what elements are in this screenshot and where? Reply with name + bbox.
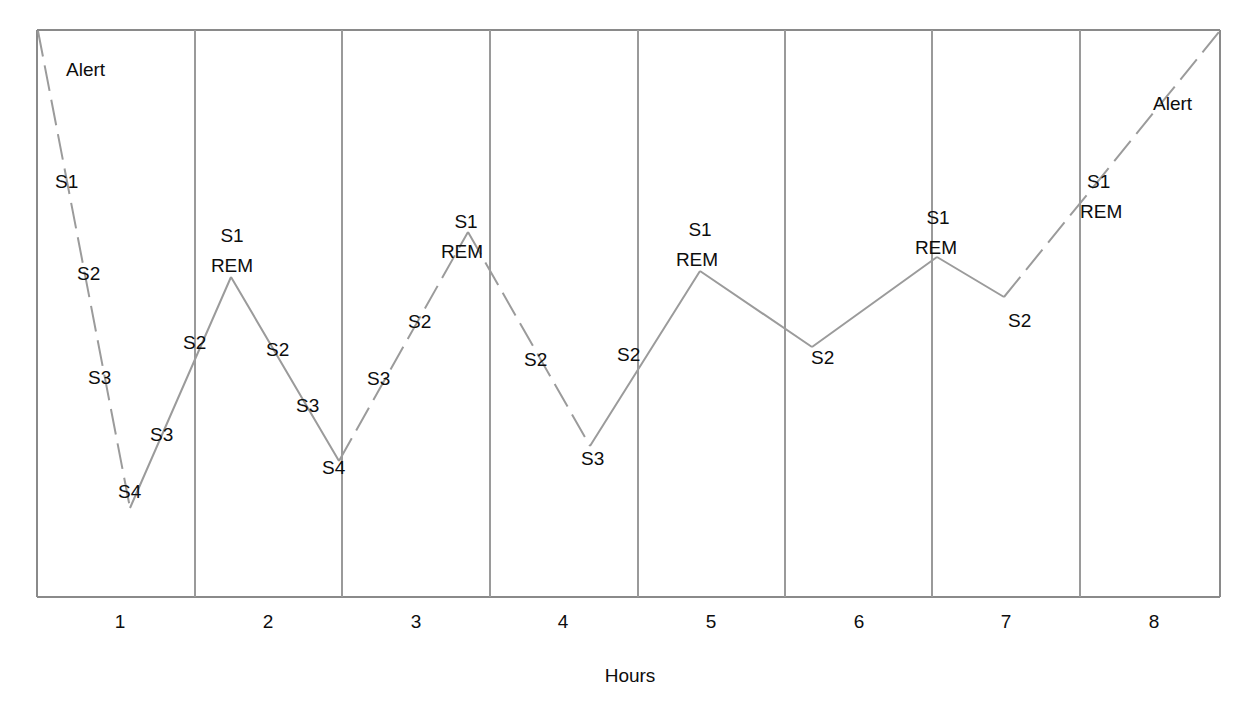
stage-label-rem-8: REM [211, 255, 253, 276]
stage-label-s1-7: S1 [220, 225, 243, 246]
stage-label-s2-2: S2 [77, 263, 100, 284]
x-tick-label-3: 3 [411, 611, 422, 632]
stage-label-alert-0: Alert [66, 59, 106, 80]
stage-label-s1-1: S1 [55, 171, 78, 192]
stage-label-s3-5: S3 [150, 424, 173, 445]
stage-label-s1-19: S1 [688, 219, 711, 240]
stage-label-s3-3: S3 [88, 367, 111, 388]
stage-label-s3-12: S3 [367, 368, 390, 389]
stage-label-s1-25: S1 [1087, 171, 1110, 192]
stage-label-s3-17: S3 [581, 448, 604, 469]
x-tick-label-5: 5 [706, 611, 717, 632]
x-axis-tick-labels: 12345678 [115, 611, 1160, 632]
stage-label-rem-20: REM [676, 249, 718, 270]
x-tick-label-1: 1 [115, 611, 126, 632]
stage-label-alert-27: Alert [1153, 93, 1193, 114]
stage-label-s4-4: S4 [118, 481, 142, 502]
stage-label-s2-13: S2 [408, 311, 431, 332]
stage-label-s4-11: S4 [322, 457, 346, 478]
x-tick-label-8: 8 [1149, 611, 1160, 632]
stage-label-rem-23: REM [915, 237, 957, 258]
stage-label-s2-16: S2 [524, 349, 547, 370]
stage-label-s2-9: S2 [266, 339, 289, 360]
hypnogram-svg: AlertS1S2S3S4S3S2S1REMS2S3S4S3S2S1REMS2S… [0, 0, 1242, 721]
sleep-trace-solid [130, 257, 1004, 508]
stage-label-s2-21: S2 [811, 347, 834, 368]
stage-label-rem-15: REM [441, 241, 483, 262]
panel-dividers [195, 30, 1080, 597]
hypnogram-chart: AlertS1S2S3S4S3S2S1REMS2S3S4S3S2S1REMS2S… [0, 0, 1242, 721]
stage-label-rem-26: REM [1080, 201, 1122, 222]
x-tick-label-4: 4 [558, 611, 569, 632]
x-tick-label-7: 7 [1001, 611, 1012, 632]
x-tick-label-6: 6 [854, 611, 865, 632]
stage-annotation-group: AlertS1S2S3S4S3S2S1REMS2S3S4S3S2S1REMS2S… [55, 59, 1193, 502]
stage-label-s1-22: S1 [926, 207, 949, 228]
stage-label-s2-18: S2 [617, 344, 640, 365]
x-axis-title: Hours [605, 665, 656, 686]
x-tick-label-2: 2 [263, 611, 274, 632]
stage-label-s2-24: S2 [1008, 310, 1031, 331]
stage-label-s2-6: S2 [183, 332, 206, 353]
stage-label-s1-14: S1 [454, 211, 477, 232]
stage-label-s3-10: S3 [296, 395, 319, 416]
